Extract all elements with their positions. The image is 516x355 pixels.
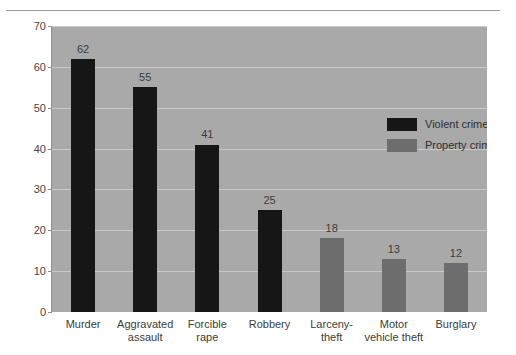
legend-label: Property crime	[425, 139, 487, 152]
bar[interactable]	[258, 210, 282, 312]
bar[interactable]	[320, 238, 344, 312]
category-label-line: vehicle theft	[356, 331, 432, 344]
gridline	[52, 149, 487, 150]
y-tick-label: 40	[22, 144, 46, 155]
y-tick-label: 50	[22, 103, 46, 114]
category-label-line: Burglary	[418, 318, 494, 331]
legend-label: Violent crime	[425, 118, 487, 131]
y-tick-mark	[48, 312, 52, 313]
y-tick-label: 20	[22, 225, 46, 236]
y-tick-label: 70	[22, 21, 46, 32]
plot-area: Violent crimeProperty crime	[52, 26, 487, 312]
bar-value-label: 62	[63, 44, 103, 55]
y-tick-label: 60	[22, 62, 46, 73]
bar[interactable]	[444, 263, 468, 312]
y-tick-label: 10	[22, 266, 46, 277]
category-label: Burglary	[418, 318, 494, 331]
bar-value-label: 55	[125, 72, 165, 83]
gridline	[52, 108, 487, 109]
gridline	[52, 189, 487, 190]
bar[interactable]	[382, 259, 406, 312]
legend-swatch	[387, 139, 417, 152]
bar[interactable]	[133, 87, 157, 312]
legend-swatch	[387, 118, 417, 131]
y-tick-label: 30	[22, 184, 46, 195]
bar-value-label: 12	[436, 248, 476, 259]
bar-value-label: 41	[187, 129, 227, 140]
bar[interactable]	[71, 59, 95, 312]
gridline	[52, 67, 487, 68]
bar-chart: 010203040506070 Violent crimeProperty cr…	[0, 0, 516, 355]
bar-value-label: 13	[374, 244, 414, 255]
bar[interactable]	[195, 145, 219, 313]
gridline	[52, 26, 487, 27]
bar-value-label: 25	[250, 195, 290, 206]
category-label-line: rape	[169, 331, 245, 344]
y-tick-label: 0	[22, 307, 46, 318]
bar-value-label: 18	[312, 223, 352, 234]
